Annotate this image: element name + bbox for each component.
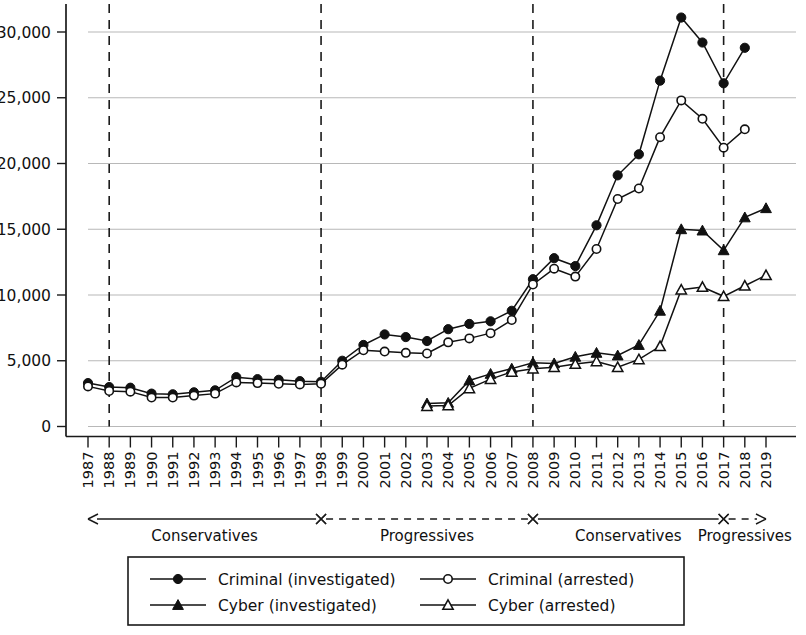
series-marker-1	[444, 338, 452, 346]
x-tick-label: 2000	[355, 452, 371, 489]
x-tick-label: 2014	[652, 452, 668, 489]
series-marker-1	[613, 195, 621, 203]
line-chart-figure: 05,00010,00015,00020,00025,00030,000 198…	[0, 0, 806, 635]
series-marker-0	[571, 261, 580, 270]
series-marker-0	[698, 38, 707, 47]
series-marker-1	[105, 387, 113, 395]
x-tick-label: 1998	[313, 452, 329, 489]
series-marker-0	[592, 221, 601, 230]
x-tick-label: 2004	[440, 452, 456, 489]
series-marker-1	[423, 349, 431, 357]
series-marker-0	[401, 332, 410, 341]
x-tick-label: 2009	[546, 452, 562, 489]
series-marker-1	[253, 379, 261, 387]
series-marker-1	[719, 144, 727, 152]
x-tick-label: 1990	[144, 452, 160, 489]
legend-marker-0	[173, 574, 182, 583]
series-marker-1	[380, 347, 388, 355]
series-marker-1	[698, 115, 706, 123]
series-marker-0	[380, 330, 389, 339]
series-marker-0	[677, 13, 686, 22]
series-marker-1	[402, 349, 410, 357]
series-marker-1	[359, 346, 367, 354]
period-label: Conservatives	[575, 527, 682, 545]
x-tick-label: 2015	[673, 452, 689, 489]
x-tick-label: 2003	[419, 452, 435, 489]
series-marker-1	[508, 316, 516, 324]
x-tick-label: 2001	[377, 452, 393, 489]
series-marker-1	[84, 382, 92, 390]
series-marker-0	[719, 79, 728, 88]
legend-label: Criminal (investigated)	[218, 571, 396, 589]
x-tick-label: 2012	[610, 452, 626, 489]
x-tick-label: 2006	[483, 452, 499, 489]
series-marker-1	[274, 380, 282, 388]
series-marker-1	[656, 133, 664, 141]
x-tick-label: 1995	[250, 452, 266, 489]
series-marker-0	[465, 319, 474, 328]
series-marker-0	[634, 150, 643, 159]
series-marker-1	[571, 272, 579, 280]
series-marker-0	[507, 306, 516, 315]
series-marker-0	[444, 325, 453, 334]
series-marker-1	[147, 393, 155, 401]
y-tick-label: 0	[41, 418, 51, 436]
x-tick-label: 2018	[737, 452, 753, 489]
x-tick-label: 2010	[567, 452, 583, 489]
series-marker-1	[317, 380, 325, 388]
series-marker-1	[529, 280, 537, 288]
x-tick-label: 1988	[101, 452, 117, 489]
x-tick-label: 2011	[589, 452, 605, 489]
y-tick-label: 25,000	[0, 89, 51, 107]
x-tick-label: 2013	[631, 452, 647, 489]
series-marker-0	[655, 76, 664, 85]
series-marker-0	[550, 254, 559, 263]
series-marker-0	[486, 317, 495, 326]
x-tick-label: 1994	[228, 452, 244, 489]
x-tick-label: 1999	[334, 452, 350, 489]
series-marker-1	[550, 265, 558, 273]
legend-label: Cyber (arrested)	[488, 597, 615, 615]
y-tick-label: 10,000	[0, 287, 51, 305]
x-tick-label: 2008	[525, 452, 541, 489]
series-marker-0	[613, 171, 622, 180]
x-tick-label: 2002	[398, 452, 414, 489]
legend-label: Cyber (investigated)	[218, 597, 377, 615]
series-marker-1	[486, 329, 494, 337]
series-marker-1	[635, 184, 643, 192]
y-tick-label: 20,000	[0, 155, 51, 173]
series-marker-1	[592, 245, 600, 253]
x-tick-label: 1989	[122, 452, 138, 489]
period-label: Conservatives	[151, 527, 258, 545]
y-tick-label: 5,000	[7, 352, 51, 370]
x-tick-label: 1991	[165, 452, 181, 489]
y-tick-label: 30,000	[0, 24, 51, 42]
x-tick-label: 2017	[716, 452, 732, 489]
x-tick-label: 1997	[292, 452, 308, 489]
series-marker-1	[465, 334, 473, 342]
series-marker-1	[169, 393, 177, 401]
series-marker-1	[677, 96, 685, 104]
series-marker-0	[740, 43, 749, 52]
period-label: Progressives	[698, 527, 792, 545]
chart-legend: Criminal (investigated)Criminal (arreste…	[128, 557, 684, 625]
x-tick-label: 2007	[504, 452, 520, 489]
x-tick-label: 1993	[207, 452, 223, 489]
series-marker-1	[126, 387, 134, 395]
series-marker-1	[190, 391, 198, 399]
series-marker-1	[296, 380, 304, 388]
series-marker-0	[422, 336, 431, 345]
legend-marker-1	[444, 575, 452, 583]
y-tick-label: 15,000	[0, 221, 51, 239]
series-marker-1	[338, 360, 346, 368]
x-tick-label: 2005	[461, 452, 477, 489]
series-marker-1	[741, 125, 749, 133]
x-tick-label: 2019	[758, 452, 774, 489]
series-marker-1	[211, 389, 219, 397]
series-marker-1	[232, 378, 240, 386]
x-tick-label: 2016	[694, 452, 710, 489]
x-tick-label: 1987	[80, 452, 96, 489]
legend-label: Criminal (arrested)	[488, 571, 634, 589]
x-tick-label: 1992	[186, 452, 202, 489]
legend-box	[128, 557, 684, 625]
